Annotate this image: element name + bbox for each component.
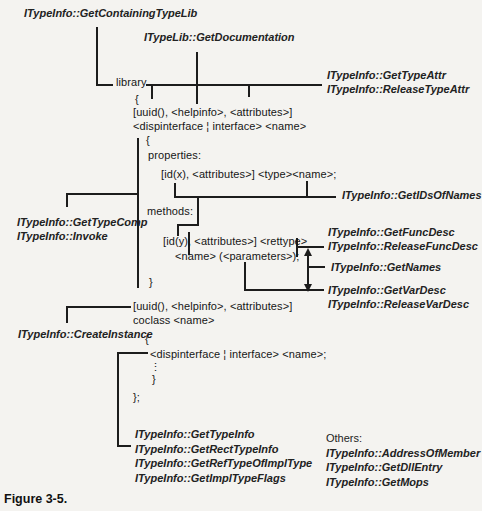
connector-getvardesc-bar bbox=[244, 289, 324, 291]
label-get-type-info: ITypeInfo::GetTypeInfo bbox=[135, 429, 255, 440]
connector-gettypecomp-bracket bbox=[66, 193, 139, 195]
label-get-documentation: ITypeLib::GetDocumentation bbox=[144, 32, 295, 43]
code-dispinterface-line-2: <dispinterface ¦ interface> <name>; bbox=[150, 349, 326, 360]
label-release-type-attr: ITypeInfo::ReleaseTypeAttr bbox=[327, 84, 469, 95]
label-others-heading: Others: bbox=[326, 433, 362, 444]
label-get-type-comp: ITypeInfo::GetTypeComp bbox=[17, 217, 148, 228]
code-open-brace-coclass: { bbox=[145, 334, 149, 345]
connector-coclass-vertical bbox=[117, 352, 119, 447]
connector-methods-step-vertical bbox=[197, 198, 199, 226]
code-uuid-line-2: [uuid(), <helpinfo>, <attributes>] bbox=[133, 301, 292, 312]
label-get-rect-type-info: ITypeInfo::GetRectTypeInfo bbox=[135, 444, 278, 455]
connector-gettypecomp-tick bbox=[66, 195, 68, 207]
code-close-brace-coclass: } bbox=[152, 374, 156, 385]
connector-getcontainingtypelib-elbow bbox=[96, 84, 113, 86]
connector-main-vertical bbox=[137, 138, 139, 288]
code-open-brace-interface: { bbox=[146, 135, 150, 146]
code-library-keyword: library bbox=[116, 77, 147, 88]
connector-gettypeinfo-elbow bbox=[117, 445, 131, 447]
connector-getcontainingtypelib-stem bbox=[96, 27, 98, 86]
code-close-brace-library: }; bbox=[133, 392, 140, 403]
figure-caption: Figure 3-5. bbox=[4, 492, 67, 506]
label-get-mops: ITypeInfo::GetMops bbox=[326, 477, 429, 488]
label-get-ids-of-names: ITypeInfo::GetIDsOfNames bbox=[342, 190, 482, 201]
connector-getnames-tick bbox=[308, 266, 325, 268]
label-release-var-desc: ITypeInfo::ReleaseVarDesc bbox=[328, 299, 469, 310]
label-get-ref-type-of-impl-type: ITypeInfo::GetRefTypeOfImplType bbox=[135, 458, 312, 469]
code-name-params-line: <name> (<parameters>); bbox=[175, 251, 299, 262]
code-properties-keyword: properties: bbox=[148, 150, 201, 161]
connector-getdocumentation-stem bbox=[196, 52, 198, 104]
type-library-interfaces-diagram: ITypeInfo::GetContainingTypeLib ITypeLib… bbox=[0, 0, 482, 511]
code-vertical-ellipsis: ⋮ bbox=[150, 362, 161, 373]
code-methods-keyword: methods: bbox=[147, 206, 193, 217]
label-invoke: ITypeInfo::Invoke bbox=[17, 231, 108, 242]
connector-dispinterface-tick bbox=[119, 352, 148, 354]
label-get-func-desc: ITypeInfo::GetFuncDesc bbox=[328, 227, 455, 238]
connector-methods-step-horizontal bbox=[177, 224, 199, 226]
label-get-var-desc: ITypeInfo::GetVarDesc bbox=[328, 285, 446, 296]
connector-parameters-stem bbox=[244, 262, 246, 291]
code-uuid-line-1: [uuid(), <helpinfo>, <attributes>] bbox=[133, 107, 292, 118]
connector-library-tick-2 bbox=[248, 86, 250, 97]
label-get-impl-type-flags: ITypeInfo::GetImplTypeFlags bbox=[135, 473, 286, 484]
connector-library-tick-1 bbox=[151, 86, 153, 99]
connector-coclass-bracket bbox=[66, 306, 131, 308]
code-close-brace-interface: } bbox=[149, 277, 153, 288]
arrow-up-icon bbox=[304, 248, 312, 256]
label-get-names: ITypeInfo::GetNames bbox=[331, 262, 441, 273]
code-dispinterface-line-1: <dispinterface ¦ interface> <name> bbox=[133, 121, 306, 132]
label-get-containing-type-lib: ITypeInfo::GetContainingTypeLib bbox=[24, 8, 197, 19]
code-id-x-line: [id(x), <attributes>] <type><name>; bbox=[161, 169, 336, 180]
label-address-of-member: ITypeInfo::AddressOfMember bbox=[326, 448, 480, 459]
label-get-dll-entry: ITypeInfo::GetDllEntry bbox=[326, 462, 442, 473]
code-coclass-line: coclass <name> bbox=[133, 315, 215, 326]
label-get-type-attr: ITypeInfo::GetTypeAttr bbox=[327, 70, 446, 81]
label-create-instance: ITypeInfo::CreateInstance bbox=[18, 329, 153, 340]
connector-library-to-typeattr bbox=[146, 84, 322, 86]
code-id-y-line: [id(y), <attributes>] <rettype> bbox=[163, 236, 307, 247]
connector-idx-right-tick bbox=[306, 181, 308, 197]
double-arrow-shaft bbox=[307, 254, 309, 286]
label-release-func-desc: ITypeInfo::ReleaseFuncDesc bbox=[328, 241, 478, 252]
connector-createinstance-tick bbox=[66, 308, 68, 323]
code-open-brace-library: { bbox=[135, 94, 139, 105]
